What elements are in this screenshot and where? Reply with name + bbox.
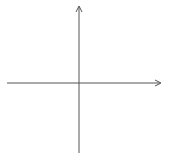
coordinate-plane	[0, 0, 169, 154]
